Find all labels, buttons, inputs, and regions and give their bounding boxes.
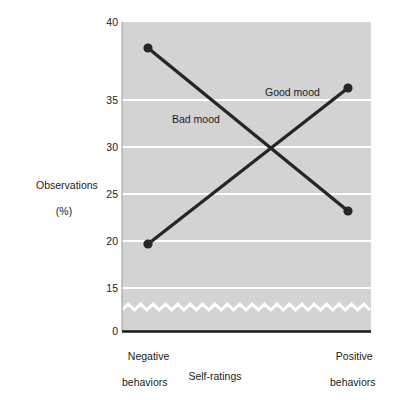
xtick-label-positive-line2: behaviors xyxy=(330,376,398,389)
plot-background xyxy=(122,22,371,331)
ytick-label-20: 20 xyxy=(94,235,118,247)
y-axis-title-line1: Observations xyxy=(36,179,98,191)
series-label-bad-mood: Bad mood xyxy=(172,113,220,125)
ytick-label-0: 0 xyxy=(94,325,118,337)
xtick-label-negative-line1: Negative xyxy=(128,350,169,362)
data-point-bad-mood-negative xyxy=(143,43,152,52)
data-point-bad-mood-positive xyxy=(343,206,352,215)
x-axis-title: Self-ratings xyxy=(160,370,270,383)
y-axis-title-line2: (%) xyxy=(14,205,114,218)
xtick-label-positive-line1: Positive xyxy=(336,350,373,362)
ytick-label-15: 15 xyxy=(94,282,118,294)
y-axis-title: Observations (%) xyxy=(14,166,114,231)
data-point-good-mood-negative xyxy=(143,239,152,248)
ytick-label-40: 40 xyxy=(94,16,118,28)
ytick-label-35: 35 xyxy=(94,94,118,106)
series-label-good-mood: Good mood xyxy=(265,86,320,98)
data-point-good-mood-positive xyxy=(343,83,352,92)
ytick-label-30: 30 xyxy=(94,141,118,153)
xtick-label-negative-behaviors: Negative behaviors xyxy=(122,337,212,400)
xtick-label-positive-behaviors: Positive behaviors xyxy=(330,337,398,400)
